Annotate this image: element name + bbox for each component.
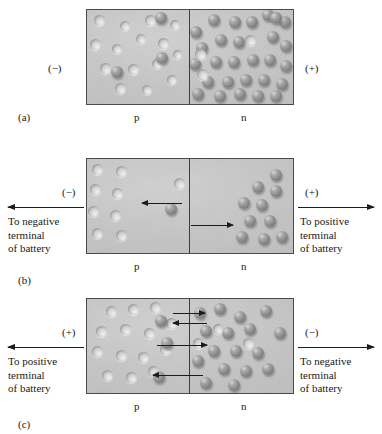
electron-carrier (190, 26, 202, 38)
electron-carrier (161, 337, 173, 349)
hole-carrier (116, 166, 127, 177)
panel-b-semiconductor-block (86, 158, 294, 254)
electron-carrier (222, 76, 234, 88)
electron-carrier (111, 66, 123, 78)
carrier-motion-arrow-left-icon (173, 323, 207, 324)
panel-b-left-battery-arrow-icon (8, 207, 84, 208)
electron-carrier (222, 327, 234, 339)
electron-carrier (270, 12, 282, 24)
electron-carrier (208, 345, 220, 357)
electron-carrier (192, 355, 204, 367)
electron-carrier (238, 197, 250, 209)
electron-carrier (270, 169, 282, 181)
panel-b-left-battery-text: To negative terminal of battery (8, 215, 59, 256)
panel-b-right-polarity: (+) (305, 187, 319, 198)
carrier-motion-arrow-right-icon (191, 225, 233, 226)
hole-carrier (213, 324, 223, 334)
pn-junction-figure: (−) (+) p n (a) (−) (+) To negative term… (0, 0, 382, 434)
electron-carrier (258, 74, 270, 86)
hole-carrier (142, 85, 152, 95)
panel-c-left-polarity: (+) (62, 327, 76, 338)
carrier-motion-arrow-right-icon (173, 313, 205, 314)
panel-c-right-battery-text: To negative terminal of battery (300, 355, 351, 396)
panel-a-right-polarity: (+) (305, 63, 319, 74)
hole-carrier (94, 15, 105, 26)
hole-carrier (197, 69, 208, 80)
electron-carrier (214, 90, 226, 102)
electron-carrier (247, 54, 259, 66)
electron-carrier (244, 323, 256, 335)
electron-carrier (234, 311, 246, 323)
electron-carrier (270, 90, 282, 102)
panel-c-right-polarity: (−) (305, 327, 319, 338)
hole-carrier (128, 64, 139, 75)
panel-c-left-battery-arrow-icon (8, 347, 84, 348)
electron-carrier (267, 31, 279, 43)
hole-carrier (158, 38, 169, 49)
hole-carrier (90, 184, 101, 195)
hole-carrier (173, 50, 182, 59)
electron-carrier (215, 34, 227, 46)
electron-carrier (155, 315, 167, 327)
electron-carrier (236, 231, 248, 243)
panel-a-n-label: n (241, 112, 247, 123)
hole-carrier (167, 75, 177, 85)
electron-carrier (276, 231, 288, 243)
electron-carrier (252, 347, 264, 359)
electron-carrier (274, 327, 286, 339)
hole-carrier (115, 83, 126, 94)
panel-c-letter: (c) (18, 419, 30, 430)
carrier-motion-arrow-left-icon (153, 375, 203, 376)
electron-carrier (260, 305, 272, 317)
electron-carrier (280, 60, 292, 72)
hole-carrier (110, 210, 121, 221)
electron-carrier (264, 215, 276, 227)
electron-carrier (228, 379, 240, 391)
panel-b-p-label: p (134, 261, 140, 272)
panel-a-letter: (a) (18, 112, 30, 123)
hole-carrier (128, 304, 139, 315)
panel-b-n-label: n (241, 261, 247, 272)
hole-carrier (100, 63, 111, 74)
hole-carrier (88, 206, 99, 217)
panel-a: (−) (+) p n (a) (0, 0, 382, 145)
hole-carrier (96, 326, 107, 337)
electron-carrier (155, 12, 167, 24)
carrier-motion-arrow-left-icon (142, 203, 182, 204)
hole-carrier (150, 302, 161, 313)
panel-a-junction-line (189, 10, 190, 104)
electron-carrier (200, 325, 212, 337)
electron-carrier (229, 16, 241, 28)
electron-carrier (214, 303, 226, 315)
electron-carrier (264, 54, 276, 66)
electron-carrier (233, 36, 245, 48)
hole-carrier (136, 34, 146, 44)
panel-b-right-battery-text: To positive terminal of battery (300, 215, 349, 256)
panel-c-right-battery-arrow-icon (298, 347, 374, 348)
panel-a-semiconductor-block (86, 9, 294, 105)
hole-carrier (126, 372, 137, 383)
electron-carrier (258, 233, 270, 245)
hole-carrier (245, 35, 256, 46)
electron-carrier (270, 185, 282, 197)
electron-carrier (256, 199, 268, 211)
hole-carrier (243, 338, 254, 349)
panel-b-junction-line (189, 159, 190, 253)
panel-c-semiconductor-block (86, 298, 294, 394)
panel-b: (−) (+) To negative terminal of battery … (0, 145, 382, 290)
hole-carrier (120, 324, 131, 335)
hole-carrier (145, 15, 156, 26)
electron-carrier (276, 78, 288, 90)
electron-carrier (192, 88, 204, 100)
hole-carrier (92, 346, 103, 357)
carrier-motion-arrow-right-icon (157, 345, 207, 346)
panel-a-left-polarity: (−) (48, 63, 62, 74)
hole-carrier (174, 178, 185, 189)
hole-carrier (106, 306, 117, 317)
hole-carrier (170, 20, 180, 30)
hole-carrier (102, 370, 113, 381)
hole-carrier (116, 230, 127, 241)
electron-carrier (234, 88, 246, 100)
hole-carrier (90, 39, 101, 50)
electron-carrier (240, 365, 252, 377)
